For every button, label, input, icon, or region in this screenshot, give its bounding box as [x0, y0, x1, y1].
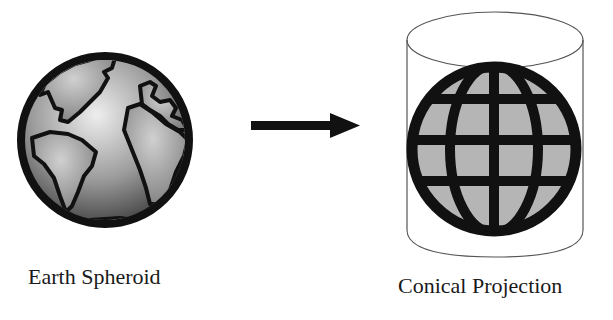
earth-globe-icon — [21, 56, 189, 228]
conical-projection-caption: Conical Projection — [398, 273, 562, 299]
right-arrow-icon — [251, 113, 360, 138]
earth-spheroid-caption: Earth Spheroid — [28, 264, 161, 290]
wireframe-globe-in-cylinder-icon — [400, 12, 590, 257]
